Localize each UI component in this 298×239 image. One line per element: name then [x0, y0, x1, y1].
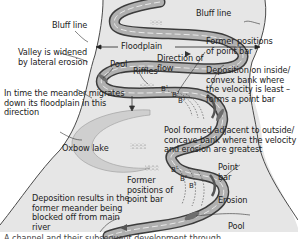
label-direction-of-flow: Direction of flow — [157, 54, 205, 73]
label-point-bar: Point bar — [218, 163, 248, 182]
label-pool-bottom: Pool — [228, 222, 245, 232]
label-floodplain: Floodplain — [121, 42, 162, 52]
label-riffles: Riffles — [133, 67, 158, 77]
label-deposition-inside: Deposition on inside/ convex bank where … — [206, 66, 298, 104]
meander-diagram: B1 B2 B3 B1 B2 B3 Bluff line Bluff line … — [0, 0, 298, 239]
label-former-positions-top: Former positions of point bar — [206, 37, 281, 56]
cutoff-caption: A channel and their subsequent developme… — [4, 233, 231, 239]
label-pool-formed: Pool formed adjacent to outside/ concave… — [164, 126, 298, 155]
label-bluff-line-left: Bluff line — [52, 21, 87, 31]
riffle-top — [150, 20, 162, 25]
label-pool-top: Pool — [110, 60, 127, 70]
label-former-positions-bottom: Former positions of point bar — [127, 176, 177, 205]
label-oxbow-lake: Oxbow lake — [62, 144, 109, 154]
riffle-low — [130, 143, 146, 149]
label-valley-widened: Valley is widened by lateral erosion — [18, 48, 90, 67]
label-meander-migrates: In time the meander migrates down its fl… — [4, 89, 132, 118]
label-bluff-line-right: Bluff line — [196, 9, 231, 19]
riffle-oxbow — [145, 165, 159, 171]
label-erosion: Erosion — [218, 196, 247, 206]
riffle-mid — [140, 83, 154, 89]
label-deposition-blocked: Deposition results in the former meander… — [32, 194, 132, 232]
